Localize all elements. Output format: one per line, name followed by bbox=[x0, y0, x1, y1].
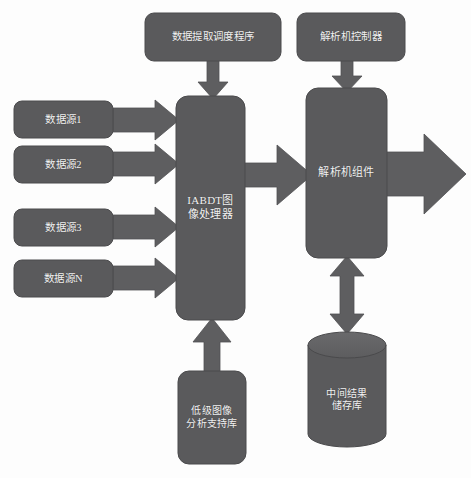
node-low-level-lib[interactable] bbox=[178, 371, 246, 464]
node-extract-scheduler[interactable] bbox=[145, 13, 281, 61]
arrow-source3-to-processor bbox=[113, 207, 179, 247]
arrow-processor-to-parser bbox=[244, 145, 312, 205]
node-parser-controller[interactable] bbox=[297, 13, 405, 61]
diagram-shapes-layer bbox=[0, 0, 471, 478]
node-intermediate-store[interactable] bbox=[308, 332, 386, 447]
arrow-sourcen-to-processor bbox=[113, 258, 179, 298]
arrow-lib-to-processor bbox=[193, 318, 231, 372]
arrow-controller-to-parser bbox=[332, 60, 362, 92]
arrow-source1-to-processor bbox=[113, 100, 179, 140]
arrow-scheduler-to-processor bbox=[198, 60, 228, 99]
arrow-parser-output bbox=[386, 134, 466, 214]
arrow-parser-store-sync bbox=[330, 256, 364, 334]
architecture-diagram-canvas: 数据提取调度程序 解析机控制器 数据源1 数据源2 数据源3 数据源N IABD… bbox=[0, 0, 471, 478]
arrow-source2-to-processor bbox=[113, 144, 179, 184]
node-source-1[interactable] bbox=[14, 101, 113, 138]
node-source-2[interactable] bbox=[14, 146, 113, 183]
node-image-processor[interactable] bbox=[176, 96, 245, 320]
node-parser-component[interactable] bbox=[306, 88, 387, 258]
node-source-n[interactable] bbox=[14, 260, 113, 297]
node-source-3[interactable] bbox=[14, 209, 113, 246]
